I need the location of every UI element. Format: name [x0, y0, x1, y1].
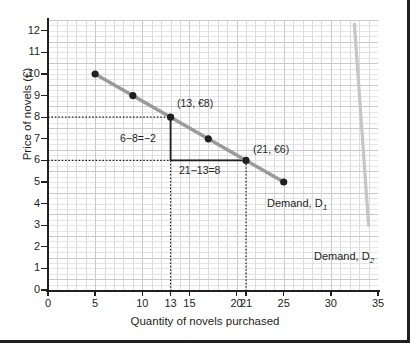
x-axis-tick — [94, 290, 95, 296]
y-axis-tick-label: 0 — [16, 284, 40, 295]
x-axis-tick-label: 10 — [127, 298, 157, 309]
x-axis-tick-label: 21 — [231, 298, 261, 309]
x-axis-tick-label: 35 — [363, 298, 393, 309]
x-axis-tick — [377, 290, 378, 296]
point-label-21-6: (21, €6) — [253, 144, 289, 155]
y-axis-tick — [41, 95, 47, 96]
demand-d1-subscript: 1 — [323, 203, 327, 212]
demand-d1-label-text: Demand, D — [267, 197, 323, 209]
y-axis-line — [47, 18, 49, 292]
y-axis-tick — [41, 117, 47, 118]
y-axis-tick-label: 4 — [16, 198, 40, 209]
x-axis-tick-label: 25 — [269, 298, 299, 309]
x-axis-tick-label: 5 — [80, 298, 110, 309]
x-axis-tick — [170, 290, 171, 296]
demand-d2-subscript: 2 — [370, 256, 374, 265]
x-axis-tick-label: 0 — [33, 298, 63, 309]
demand-d2-label-text: Demand, D — [314, 250, 370, 262]
data-point — [280, 178, 287, 185]
y-axis-tick-label: 1 — [16, 262, 40, 273]
data-point — [205, 135, 212, 142]
data-point — [242, 157, 249, 164]
x-axis-tick — [236, 290, 237, 296]
demand-d2-line — [354, 24, 368, 225]
data-point — [167, 114, 174, 121]
x-axis-tick — [330, 290, 331, 296]
y-axis-tick — [41, 138, 47, 139]
y-axis-tick-label: 3 — [16, 219, 40, 230]
x-axis-tick — [245, 290, 246, 296]
x-axis-title: Quantity of novels purchased — [0, 315, 410, 327]
y-axis-tick — [41, 181, 47, 182]
y-axis-tick — [41, 73, 47, 74]
y-axis-tick-label: 2 — [16, 241, 40, 252]
plot-area: (13, €8) (21, €6) 6−8=−2 21−13=8 Demand,… — [48, 20, 378, 290]
y-axis-tick — [41, 52, 47, 53]
x-axis-tick — [283, 290, 284, 296]
chart-figure: (13, €8) (21, €6) 6−8=−2 21−13=8 Demand,… — [0, 0, 410, 343]
x-axis-tick — [189, 290, 190, 296]
data-point — [129, 92, 136, 99]
rise-label: 6−8=−2 — [120, 133, 156, 144]
data-point — [92, 70, 99, 77]
x-axis-tick-label: 15 — [174, 298, 204, 309]
demand-d2-label: Demand, D2 — [314, 251, 374, 265]
y-axis-tick — [41, 268, 47, 269]
run-label: 21−13=8 — [179, 165, 220, 176]
y-axis-title: Price of novels (€) — [21, 29, 33, 199]
x-axis-tick — [142, 290, 143, 296]
y-axis-tick — [41, 160, 47, 161]
y-axis-tick — [41, 30, 47, 31]
x-axis-tick — [47, 290, 48, 296]
point-label-13-8: (13, €8) — [177, 98, 213, 109]
x-axis-tick-label: 30 — [316, 298, 346, 309]
demand-d1-label: Demand, D1 — [267, 198, 327, 212]
y-axis-tick — [41, 246, 47, 247]
y-axis-tick — [41, 225, 47, 226]
y-axis-tick — [41, 289, 47, 290]
y-axis-tick — [41, 203, 47, 204]
